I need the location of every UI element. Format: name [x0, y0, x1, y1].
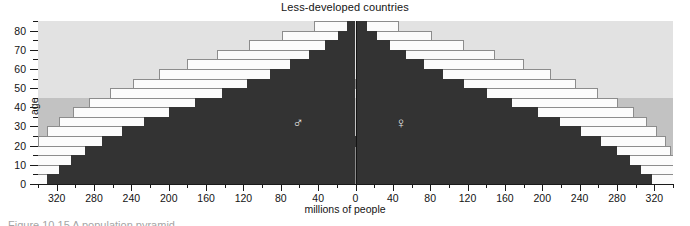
x-tick-20: [374, 184, 375, 188]
y-tick-80: [30, 31, 38, 32]
y-tick-label-0: 0: [0, 178, 26, 190]
x-tick-120: [468, 184, 469, 191]
x-tick--280: [94, 184, 95, 191]
x-tick-220: [561, 184, 562, 188]
x-tick--60: [299, 184, 300, 188]
y-tick-minor-75: [33, 40, 38, 41]
y-tick-label-30: 30: [0, 120, 26, 132]
x-tick-80: [430, 184, 431, 191]
y-tick-minor-45: [33, 98, 38, 99]
y-tick-label-80: 80: [0, 25, 26, 37]
x-tick-0: [356, 184, 357, 191]
plot-area: ♂ ♀: [38, 21, 673, 184]
figure-caption: Figure 10.15 A population pyramid: [8, 218, 428, 226]
y-tick-label-40: 40: [0, 101, 26, 113]
y-tick-label-70: 70: [0, 44, 26, 56]
x-tick-340: [673, 184, 674, 188]
bar-left-80+: [347, 21, 355, 32]
y-tick-label-50: 50: [0, 82, 26, 94]
bar-right-40-44: [356, 98, 513, 109]
bar-right-65-69: [356, 50, 406, 61]
x-tick--260: [113, 184, 114, 188]
bar-left-65-69: [309, 50, 356, 61]
x-tick-300: [636, 184, 637, 188]
x-tick-260: [598, 184, 599, 188]
bar-right-5-9: [356, 165, 642, 176]
bar-right-35-39: [356, 107, 538, 118]
x-tick--160: [206, 184, 207, 191]
bar-left-40-44: [195, 98, 356, 109]
x-tick--320: [57, 184, 58, 191]
bar-left-25-29: [122, 126, 355, 137]
y-tick-20: [30, 146, 38, 147]
bar-right-20-24: [356, 136, 602, 147]
x-tick-140: [486, 184, 487, 188]
bar-left-35-39: [169, 107, 356, 118]
bar-right-55-59: [356, 69, 444, 80]
y-tick-minor-65: [33, 59, 38, 60]
x-axis: 3202802402001601208040040801201602002402…: [38, 184, 673, 192]
bar-right-60-64: [356, 59, 424, 70]
bar-left-45-49: [222, 88, 356, 99]
bar-left-55-59: [270, 69, 356, 80]
y-tick-minor-55: [33, 79, 38, 80]
bar-left-75-79: [338, 31, 356, 42]
female-symbol: ♀: [395, 115, 406, 130]
bar-right-70-74: [356, 40, 391, 51]
x-tick--340: [38, 184, 39, 188]
y-tick-minor-25: [33, 136, 38, 137]
y-tick-minor-85: [33, 21, 38, 22]
x-tick--220: [150, 184, 151, 188]
bar-right-15-19: [356, 146, 617, 157]
x-tick--240: [131, 184, 132, 191]
y-tick-10: [30, 165, 38, 166]
y-axis: age 01020304050607080: [30, 21, 38, 184]
bar-left-5-9: [59, 165, 356, 176]
bar-left-60-64: [290, 59, 355, 70]
y-tick-40: [30, 107, 38, 108]
x-tick-100: [449, 184, 450, 188]
bar-right-80+: [356, 21, 367, 32]
y-tick-30: [30, 126, 38, 127]
bar-left-15-19: [85, 146, 356, 157]
bar-right-45-49: [356, 88, 488, 99]
bar-left-20-24: [102, 136, 356, 147]
x-tick-60: [412, 184, 413, 188]
bar-right-0-4: [356, 174, 653, 184]
x-tick-40: [393, 184, 394, 191]
y-axis-title: age: [28, 97, 40, 115]
center-axis-line: [356, 21, 357, 184]
bar-left-70-74: [325, 40, 356, 51]
x-tick--300: [75, 184, 76, 188]
x-tick--40: [318, 184, 319, 191]
y-tick-50: [30, 88, 38, 89]
x-tick--120: [243, 184, 244, 191]
bar-left-50-54: [247, 79, 355, 90]
x-tick-280: [617, 184, 618, 191]
y-tick-label-20: 20: [0, 140, 26, 152]
population-pyramid-figure: Less-developed countries ♂ ♀ age 0102030…: [0, 0, 690, 226]
bar-right-75-79: [356, 31, 377, 42]
x-tick-180: [524, 184, 525, 188]
bar-right-50-54: [356, 79, 464, 90]
x-tick--200: [169, 184, 170, 191]
x-tick-200: [542, 184, 543, 191]
y-tick-minor-15: [33, 155, 38, 156]
bar-right-25-29: [356, 126, 582, 137]
bar-left-10-14: [71, 155, 356, 166]
x-tick--100: [262, 184, 263, 188]
x-tick-160: [505, 184, 506, 191]
x-tick--140: [225, 184, 226, 188]
x-tick--180: [187, 184, 188, 188]
bar-right-30-34: [356, 117, 561, 128]
bar-left-0-4: [47, 174, 355, 184]
y-tick-0: [30, 184, 38, 185]
y-tick-label-10: 10: [0, 159, 26, 171]
x-tick--20: [337, 184, 338, 188]
bar-right-10-14: [356, 155, 631, 166]
x-tick-240: [580, 184, 581, 191]
y-tick-minor-35: [33, 117, 38, 118]
male-symbol: ♂: [292, 115, 303, 130]
x-tick-320: [654, 184, 655, 191]
y-tick-label-60: 60: [0, 63, 26, 75]
